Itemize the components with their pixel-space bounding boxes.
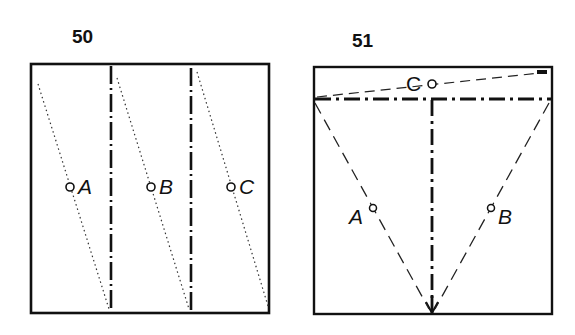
figure-51: 51 C A B (314, 30, 552, 314)
figure-51-point-b-marker (488, 205, 495, 212)
figure-50-point-b-marker (147, 183, 155, 191)
figure-51-point-a-marker (370, 205, 377, 212)
figure-51-point-b-label: B (498, 205, 512, 228)
diagram-canvas: 50 A B C 51 C (0, 0, 575, 335)
figure-50-point-c-label: C (239, 175, 255, 198)
figure-50-diagonal-2 (117, 78, 189, 309)
figure-50-point-a-label: A (76, 175, 92, 198)
figure-51-point-c-label: C (406, 72, 421, 95)
figure-51-point-a-label: A (347, 205, 363, 228)
figure-50: 50 A B C (31, 26, 269, 313)
figure-50-point-a-marker (66, 183, 74, 191)
figure-50-point-b-label: B (159, 175, 173, 198)
figure-50-diagonal-1 (38, 84, 109, 309)
figure-50-point-c-marker (227, 183, 235, 191)
figure-50-number: 50 (72, 26, 93, 47)
figure-51-point-c-marker (428, 80, 436, 88)
figure-51-corner-mark (537, 70, 547, 74)
figure-51-number: 51 (352, 30, 374, 51)
